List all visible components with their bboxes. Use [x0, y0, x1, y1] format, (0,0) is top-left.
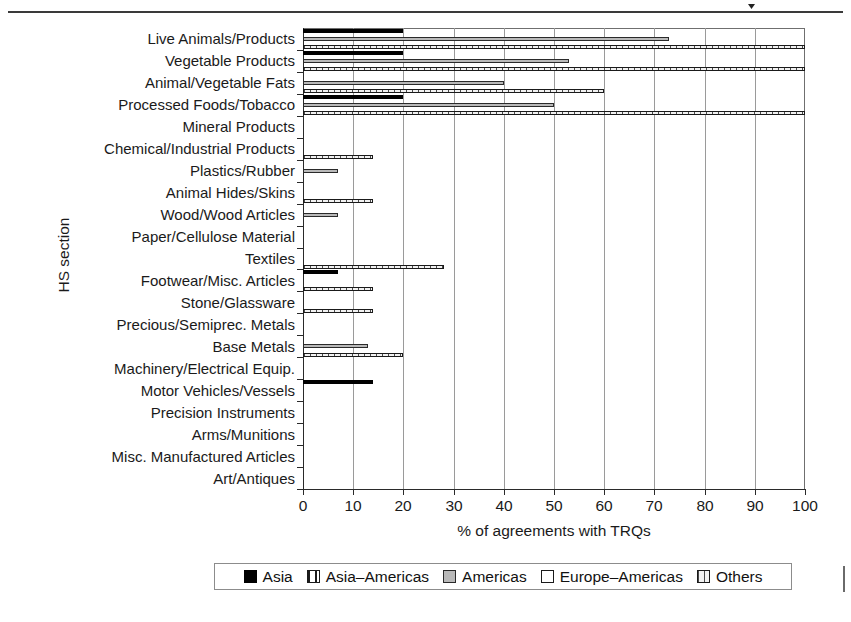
legend-label-asia_americas: Asia–Americas — [326, 568, 429, 586]
y-tick-6 — [297, 182, 303, 183]
bar-others-10 — [303, 265, 444, 269]
bar-asia_americas-7 — [303, 186, 338, 190]
bar-americas-8 — [303, 213, 338, 217]
legend-label-europe_americas: Europe–Americas — [560, 568, 683, 586]
legend-entry-asia: Asia — [244, 568, 293, 586]
bar-others-14 — [303, 353, 403, 357]
x-tick-80 — [705, 489, 706, 495]
bar-others-7 — [303, 199, 373, 203]
x-tick-label-60: 60 — [584, 497, 624, 515]
gridline-50 — [554, 28, 555, 489]
gridline-70 — [654, 28, 655, 489]
legend-label-americas: Americas — [462, 568, 527, 586]
bar-others-3 — [303, 111, 805, 115]
x-tick-50 — [554, 489, 555, 495]
bar-asia-11 — [303, 270, 338, 274]
x-tick-60 — [604, 489, 605, 495]
gridline-90 — [755, 28, 756, 489]
solid-black-swatch — [244, 570, 257, 583]
plot-frame-right — [804, 28, 805, 489]
y-tick-1 — [297, 72, 303, 73]
bar-others-2 — [303, 89, 604, 93]
solid-gray-swatch — [443, 570, 456, 583]
open-white-swatch — [541, 570, 554, 583]
gridline-30 — [454, 28, 455, 489]
y-axis-label-6: Plastics/Rubber — [5, 163, 295, 178]
x-tick-label-10: 10 — [333, 497, 373, 515]
bar-asia_americas-10 — [303, 252, 368, 256]
y-tick-5 — [297, 160, 303, 161]
y-axis-label-1: Vegetable Products — [5, 53, 295, 68]
y-tick-8 — [297, 226, 303, 227]
y-tick-7 — [297, 204, 303, 205]
x-tick-70 — [654, 489, 655, 495]
x-tick-label-30: 30 — [434, 497, 474, 515]
y-tick-16 — [297, 401, 303, 402]
y-axis-label-12: Stone/Glassware — [5, 295, 295, 310]
y-axis-label-17: Precision Instruments — [5, 405, 295, 420]
x-tick-label-40: 40 — [484, 497, 524, 515]
bar-americas-14 — [303, 344, 368, 348]
y-tick-11 — [297, 291, 303, 292]
bar-others-5 — [303, 155, 373, 159]
y-axis-label-8: Wood/Wood Articles — [5, 207, 295, 222]
y-axis-label-3: Processed Foods/Tobacco — [5, 97, 295, 112]
y-tick-14 — [297, 357, 303, 358]
y-axis-title: HS section — [55, 185, 73, 325]
x-tick-label-80: 80 — [685, 497, 725, 515]
y-axis-label-4: Mineral Products — [5, 119, 295, 134]
gridline-80 — [705, 28, 706, 489]
x-tick-40 — [504, 489, 505, 495]
legend-entry-others: Others — [697, 568, 763, 586]
y-axis-label-13: Precious/Semiprec. Metals — [5, 317, 295, 332]
y-axis-label-7: Animal Hides/Skins — [5, 185, 295, 200]
y-axis-label-11: Footwear/Misc. Articles — [5, 273, 295, 288]
y-tick-12 — [297, 313, 303, 314]
x-tick-label-50: 50 — [534, 497, 574, 515]
vertical-hatch-swatch — [307, 570, 320, 583]
x-tick-90 — [755, 489, 756, 495]
gridline-60 — [604, 28, 605, 489]
legend-entry-asia_americas: Asia–Americas — [307, 568, 429, 586]
y-tick-3 — [297, 116, 303, 117]
y-axis-label-19: Misc. Manufactured Articles — [5, 449, 295, 464]
bar-others-12 — [303, 309, 373, 313]
y-tick-17 — [297, 423, 303, 424]
x-tick-label-0: 0 — [283, 497, 323, 515]
y-axis-category-labels: Live Animals/ProductsVegetable ProductsA… — [0, 0, 295, 622]
x-tick-label-90: 90 — [735, 497, 775, 515]
y-axis-label-10: Textiles — [5, 251, 295, 266]
legend-label-others: Others — [716, 568, 763, 586]
y-tick-13 — [297, 335, 303, 336]
y-tick-19 — [297, 467, 303, 468]
x-tick-label-20: 20 — [383, 497, 423, 515]
bar-others-11 — [303, 287, 373, 291]
y-axis-label-9: Paper/Cellulose Material — [5, 229, 295, 244]
bar-asia_americas-17 — [303, 406, 373, 410]
x-tick-100 — [805, 489, 806, 495]
bar-asia_americas-12 — [303, 296, 338, 300]
x-tick-0 — [303, 489, 304, 495]
bar-asia_americas-19 — [303, 450, 373, 454]
legend-label-asia: Asia — [263, 568, 293, 586]
y-tick-18 — [297, 445, 303, 446]
page-corner-mark — [748, 4, 755, 9]
gridline-40 — [504, 28, 505, 489]
y-tick-4 — [297, 138, 303, 139]
y-axis-label-16: Motor Vehicles/Vessels — [5, 383, 295, 398]
x-tick-30 — [454, 489, 455, 495]
y-axis-label-15: Machinery/Electrical Equip. — [5, 361, 295, 376]
bar-others-0 — [303, 45, 805, 49]
x-tick-label-70: 70 — [634, 497, 674, 515]
chart-legend: AsiaAsia–AmericasAmericasEurope–Americas… — [214, 563, 792, 590]
legend-entry-americas: Americas — [443, 568, 527, 586]
y-axis-label-18: Arms/Munitions — [5, 427, 295, 442]
x-tick-label-100: 100 — [785, 497, 825, 515]
y-axis-label-2: Animal/Vegetable Fats — [5, 75, 295, 90]
x-tick-10 — [353, 489, 354, 495]
y-tick-9 — [297, 248, 303, 249]
x-tick-20 — [403, 489, 404, 495]
y-axis-label-20: Art/Antiques — [5, 471, 295, 486]
bar-americas-6 — [303, 169, 338, 173]
legend-entry-europe_americas: Europe–Americas — [541, 568, 683, 586]
